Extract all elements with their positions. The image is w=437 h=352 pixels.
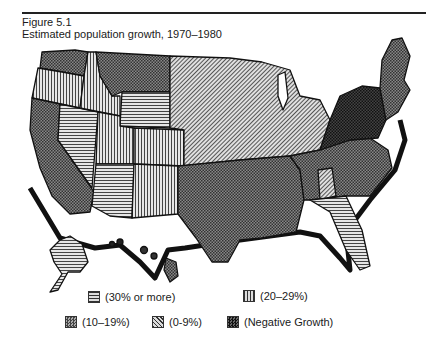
- legend-label: (Negative Growth): [244, 316, 333, 328]
- vertical-lines-swatch-icon: [243, 290, 255, 302]
- legend-label: (10–19%): [82, 316, 130, 328]
- legend-item-30plus: (30% or more): [88, 291, 175, 303]
- black-dots-swatch-icon: [227, 316, 239, 328]
- legend-item-negative: (Negative Growth): [227, 316, 333, 328]
- legend-item-0to9: (0-9%): [152, 316, 202, 328]
- dark-dots-swatch-icon: [65, 316, 77, 328]
- legend-label: (20–29%): [260, 290, 308, 302]
- legend-item-10to19: (10–19%): [65, 316, 130, 328]
- diagonal-lines-swatch-icon: [152, 316, 164, 328]
- horizontal-lines-swatch-icon: [88, 291, 100, 303]
- legend-label: (0-9%): [169, 316, 202, 328]
- legend-item-20to29: (20–29%): [243, 290, 308, 302]
- legend-label: (30% or more): [105, 291, 175, 303]
- us-population-map: [0, 0, 437, 352]
